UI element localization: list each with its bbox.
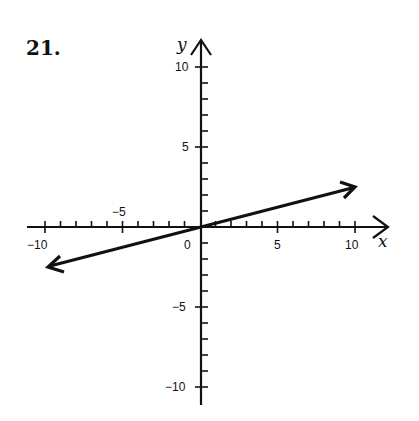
y-axis: [191, 40, 211, 405]
x-tick-label-neg10: −10: [27, 238, 48, 252]
x-tick-label-5: 5: [274, 238, 281, 252]
coordinate-plane: −10 −5 0 5 10 10 5 −5 −10 x y: [0, 0, 419, 421]
x-tick-label-10: 10: [345, 238, 359, 252]
y-tick-label-neg10: −10: [165, 380, 186, 394]
x-axis: [27, 216, 388, 238]
y-axis-label: y: [176, 34, 187, 54]
origin-label: 0: [184, 238, 191, 252]
y-tick-label-10: 10: [175, 60, 189, 74]
y-tick-label-neg5: −5: [172, 300, 186, 314]
x-tick-label-neg5: −5: [112, 205, 126, 219]
y-tick-label-5: 5: [182, 140, 189, 154]
x-axis-label: x: [378, 231, 388, 251]
